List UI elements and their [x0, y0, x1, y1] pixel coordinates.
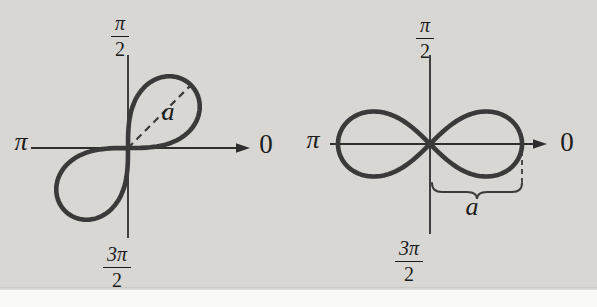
left-fig-top-axis-label: π 2	[111, 12, 129, 59]
fraction-numerator: 3π	[103, 243, 131, 268]
polar-figure-right	[330, 55, 547, 234]
fraction-numerator: π	[111, 12, 129, 37]
fraction-denominator: 2	[420, 39, 430, 61]
fraction-denominator: 2	[404, 262, 414, 284]
left-fig-pi-label: π	[14, 129, 27, 155]
fraction-numerator: 3π	[395, 237, 423, 262]
left-fig-zero-label: 0	[259, 131, 273, 158]
left-fig-radius-label: a	[162, 99, 175, 125]
axis-arrowhead	[533, 139, 547, 149]
fraction-denominator: 2	[115, 37, 125, 59]
left-fig-bottom-axis-label: 3π 2	[103, 243, 131, 290]
polar-figure-left	[31, 55, 250, 238]
textbook-figure-page: π 2 3π 2 π 0 a π 2 3π 2 π 0 a	[0, 0, 597, 307]
right-fig-top-axis-label: π 2	[416, 14, 434, 61]
right-fig-bottom-axis-label: 3π 2	[395, 237, 423, 284]
axis-arrowhead	[236, 143, 250, 153]
page-margin-strip	[0, 290, 597, 307]
right-fig-pi-label: π	[306, 127, 319, 153]
right-fig-brace-label: a	[466, 194, 479, 220]
fraction-numerator: π	[416, 14, 434, 39]
polar-diagrams-canvas	[0, 0, 597, 307]
right-fig-zero-label: 0	[560, 129, 574, 156]
